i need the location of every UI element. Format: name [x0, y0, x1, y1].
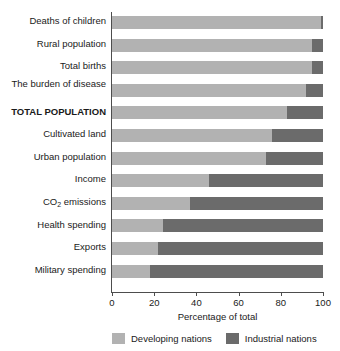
bar-segment-industrial — [209, 174, 323, 187]
bar-segment-developing — [112, 219, 163, 232]
x-tick-mark — [281, 292, 282, 296]
bar-rows — [112, 12, 323, 293]
x-tick-label: 40 — [191, 297, 202, 308]
legend-label: Industrial nations — [245, 333, 317, 344]
bar-row — [112, 197, 323, 210]
bar-segment-developing — [112, 152, 266, 165]
legend-item: Developing nations — [112, 333, 212, 344]
category-label: Military spending — [35, 265, 106, 276]
category-label: Total births — [60, 61, 106, 72]
bar-row — [112, 152, 323, 165]
bar-row — [112, 39, 323, 52]
bar-segment-developing — [112, 61, 312, 74]
x-tick-label: 0 — [109, 297, 114, 308]
chart-legend: Developing nationsIndustrial nations — [112, 331, 340, 345]
x-tick-mark — [112, 292, 113, 296]
x-tick-label: 100 — [315, 297, 331, 308]
legend-swatch — [112, 333, 125, 344]
bar-row — [112, 219, 323, 232]
legend-item: Industrial nations — [226, 333, 317, 344]
category-label: Deaths of children — [29, 16, 106, 27]
plot-area: Deaths of childrenRural populationTotal … — [0, 0, 340, 300]
bar-segment-industrial — [312, 39, 323, 52]
bar-row — [112, 129, 323, 142]
category-label: Health spending — [37, 220, 106, 231]
bar-segment-developing — [112, 129, 272, 142]
x-tick-label: 80 — [276, 297, 287, 308]
category-label: Urban population — [34, 152, 106, 163]
x-tick-label: 20 — [149, 297, 160, 308]
bar-row — [112, 84, 323, 97]
x-tick-label: 60 — [233, 297, 244, 308]
bar-segment-industrial — [190, 197, 323, 210]
bar-row — [112, 242, 323, 255]
category-label: CO2 emissions — [43, 197, 106, 209]
bar-row — [112, 174, 323, 187]
bar-segment-industrial — [266, 152, 323, 165]
x-tick-mark — [239, 292, 240, 296]
x-tick-mark — [196, 292, 197, 296]
bar-row — [112, 106, 323, 119]
bar-segment-industrial — [321, 16, 323, 29]
bar-segment-developing — [112, 106, 287, 119]
bar-segment-industrial — [163, 219, 323, 232]
legend-label: Developing nations — [131, 333, 212, 344]
bar-segment-industrial — [312, 61, 323, 74]
category-label: The burden of disease — [0, 79, 106, 90]
bar-segment-industrial — [158, 242, 323, 255]
bar-segment-developing — [112, 265, 150, 278]
bar-segment-developing — [112, 197, 190, 210]
x-tick-mark — [323, 292, 324, 296]
category-label: Income — [75, 174, 106, 185]
bar-segment-industrial — [287, 106, 323, 119]
category-label: Rural population — [37, 39, 106, 50]
bar-segment-industrial — [150, 265, 323, 278]
category-label: TOTAL POPULATION — [11, 107, 106, 118]
bar-row — [112, 61, 323, 74]
category-label: Cultivated land — [43, 129, 106, 140]
bar-segment-developing — [112, 84, 306, 97]
bar-segment-developing — [112, 16, 321, 29]
x-axis-line — [112, 292, 323, 293]
x-tick-mark — [154, 292, 155, 296]
bar-segment-developing — [112, 242, 158, 255]
bar-segment-industrial — [306, 84, 323, 97]
category-label: Exports — [74, 242, 106, 253]
bar-segment-industrial — [272, 129, 323, 142]
bar-row — [112, 16, 323, 29]
x-axis-label: Percentage of total — [112, 311, 323, 322]
bar-segment-developing — [112, 174, 209, 187]
legend-swatch — [226, 333, 239, 344]
chart-figure: Deaths of childrenRural populationTotal … — [0, 0, 340, 351]
bar-row — [112, 265, 323, 278]
bar-segment-developing — [112, 39, 312, 52]
